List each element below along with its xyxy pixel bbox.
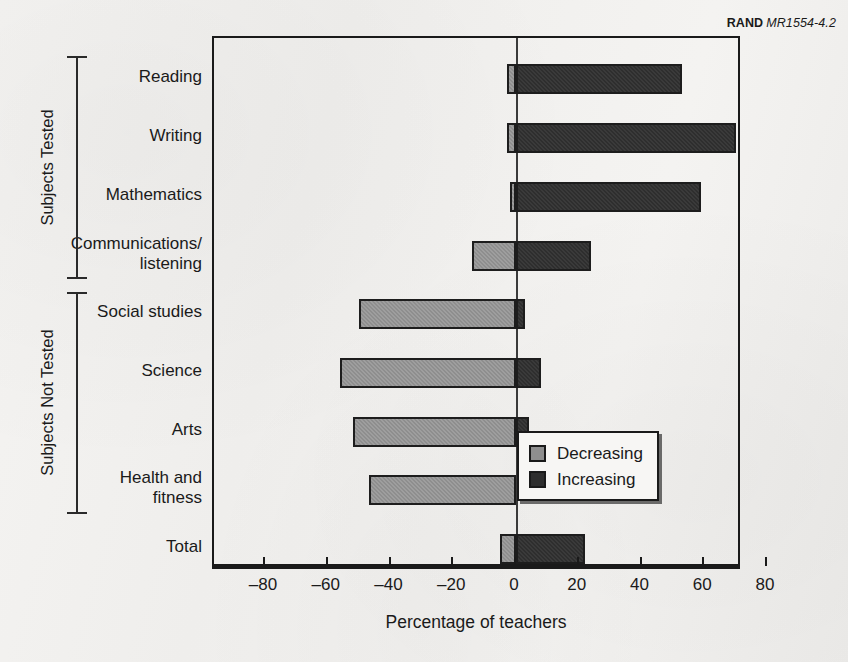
chart-legend: DecreasingIncreasing [517,431,659,501]
bar-segment-decreasing [353,417,516,447]
category-label: Science [0,361,202,381]
group-bracket [76,292,78,514]
bar-segment-increasing [516,182,701,212]
x-axis-tick [263,557,265,566]
bar-row [214,182,738,212]
legend-item: Decreasing [529,440,643,466]
bar-row [214,123,738,153]
x-axis-tick-label: 60 [693,575,712,595]
x-axis-tick [702,557,704,566]
x-axis: –80–60–40–20020406080 [212,566,740,567]
plot-area [212,36,740,566]
x-axis-tick-label: 20 [567,575,586,595]
x-axis-tick-label: –60 [312,575,340,595]
bar-row [214,241,738,271]
x-axis-tick [577,557,579,566]
category-label: Social studies [0,302,202,322]
category-label: Communications/ listening [0,234,202,274]
bar-row [214,534,738,564]
x-axis-tick [451,557,453,566]
x-axis-tick-label: –80 [249,575,277,595]
x-axis-tick-label: 0 [509,575,518,595]
bar-segment-increasing [516,534,585,564]
x-axis-tick [514,557,516,566]
category-label: Total [0,537,202,557]
figure-credit-brand: RAND [727,16,764,30]
bar-segment-increasing [516,299,525,329]
legend-swatch [529,445,546,462]
bar-row [214,299,738,329]
bar-segment-decreasing [369,475,516,505]
x-axis-tick [389,557,391,566]
bar-segment-decreasing [340,358,516,388]
group-title: Subjects Not Tested [38,293,57,513]
category-label: Health and fitness [0,468,202,508]
legend-item: Increasing [529,466,643,492]
category-label: Writing [0,126,202,146]
x-axis-title: Percentage of teachers [212,612,740,633]
bar-row [214,417,738,447]
category-label: Arts [0,420,202,440]
group-bracket [76,56,78,279]
category-label: Mathematics [0,185,202,205]
bar-row [214,475,738,505]
x-axis-tick [326,557,328,566]
figure-credit: RANDMR1554-4.2 [727,16,836,30]
bar-segment-decreasing [507,123,516,153]
bar-row [214,358,738,388]
bar-segment-decreasing [359,299,516,329]
bar-segment-decreasing [472,241,516,271]
bar-segment-decreasing [507,64,516,94]
legend-label: Decreasing [557,445,643,462]
legend-label: Increasing [557,471,635,488]
bar-row [214,64,738,94]
bar-segment-increasing [516,241,591,271]
x-axis-tick-label: –20 [437,575,465,595]
x-axis-tick [640,557,642,566]
category-label: Reading [0,67,202,87]
bar-segment-increasing [516,358,541,388]
x-axis-tick [765,557,767,566]
x-axis-tick-label: 80 [756,575,775,595]
bar-segment-increasing [516,123,736,153]
figure-credit-id: MR1554-4.2 [763,16,836,30]
x-axis-tick-label: 40 [630,575,649,595]
x-axis-line [212,566,740,569]
group-title: Subjects Tested [38,57,57,277]
legend-swatch [529,471,546,488]
bar-segment-increasing [516,64,682,94]
x-axis-tick-label: –40 [374,575,402,595]
